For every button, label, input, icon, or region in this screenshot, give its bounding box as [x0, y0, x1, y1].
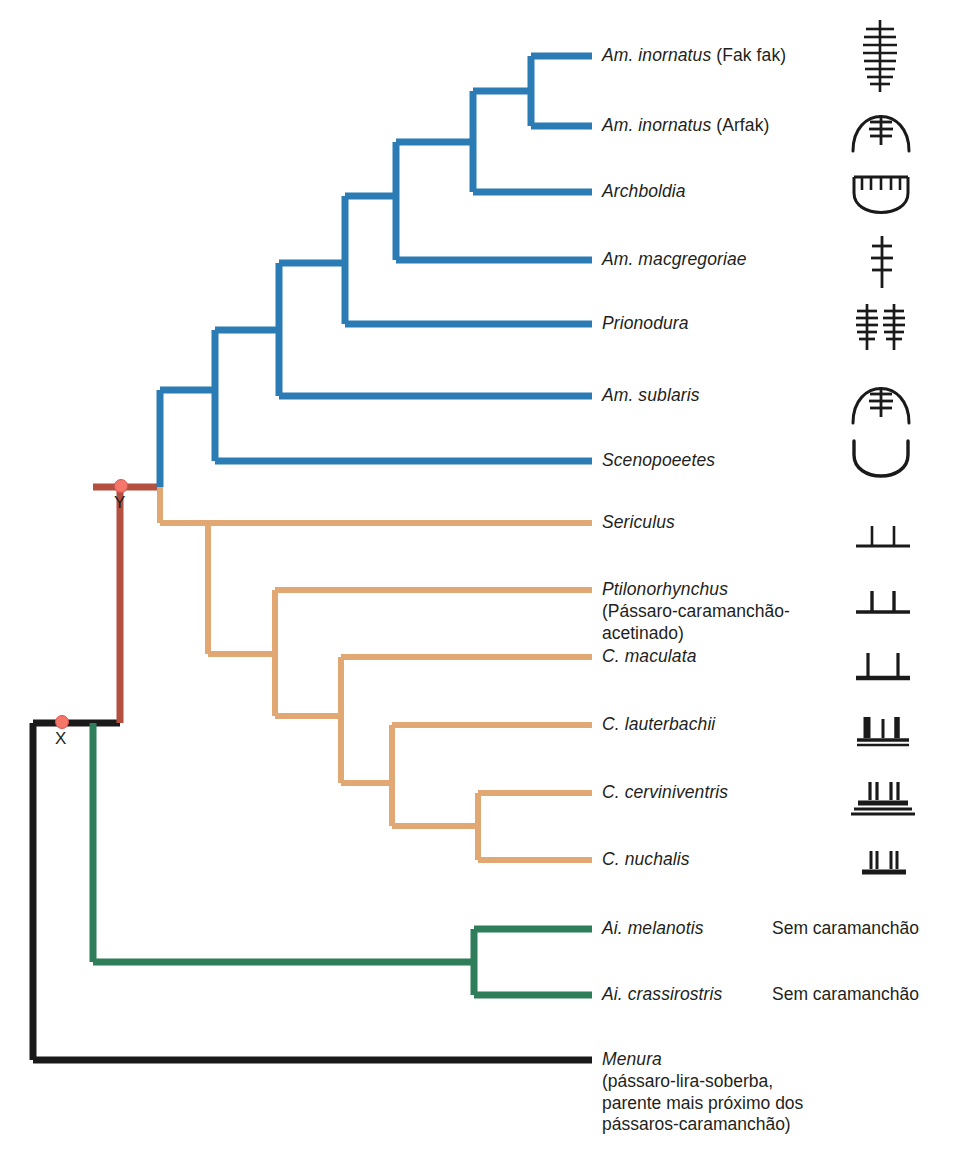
bower-icon-mat-court-comb: [848, 163, 914, 225]
root-branches-black: [33, 723, 592, 1060]
tip-label-ptilonorhynchus: Ptilonorhynchus: [602, 579, 728, 600]
clade-branches-blue: [160, 56, 592, 487]
bower-icon-avenue-stacked-platform: [848, 780, 918, 822]
node-label-x: X: [55, 729, 66, 749]
tip-name: Sericulus: [602, 512, 675, 532]
tip-name: C. lauterbachii: [602, 714, 715, 734]
tip-sublabel-menura: (pássaro-lira-soberba, parente mais próx…: [602, 1071, 803, 1136]
tip-label-c-maculata: C. maculata: [602, 646, 696, 667]
bower-icon-maypole-with-hut-arc: [848, 95, 914, 157]
bower-icon-maypole-with-hut-arc: [848, 367, 914, 429]
bower-icon-maypole-dense-stick: [848, 18, 912, 94]
tip-name: Archboldia: [602, 181, 686, 201]
tip-name: Ai. crassirostris: [602, 984, 722, 1004]
tip-suffix: (Fak fak): [711, 45, 786, 65]
bower-icon-maypole-twin-towers: [850, 300, 912, 354]
bower-icon-maypole-short-stick: [860, 234, 904, 290]
tip-label-c-cerviniventris: C. cerviniventris: [602, 782, 728, 803]
tip-label-c-lauterbachii: C. lauterbachii: [602, 714, 715, 735]
tip-label-archboldia: Archboldia: [602, 181, 686, 202]
tip-label-menura: Menura: [602, 1049, 662, 1070]
bower-icon-avenue-thin-walls: [852, 520, 914, 554]
tip-label-am-macgregoriae: Am. macgregoriae: [602, 249, 747, 270]
tip-sublabel-ptilonorhynchus: (Pássaro-caramanchão- acetinado): [602, 601, 790, 644]
bower-icon-court-arc-only: [848, 435, 914, 487]
tip-name: Am. inornatus: [602, 45, 711, 65]
node-label-y: Y: [114, 493, 125, 513]
tip-name: C. maculata: [602, 646, 696, 666]
tip-suffix: (Arfak): [711, 115, 769, 135]
tip-label-scenopoeetes: Scenopoeetes: [602, 450, 715, 471]
tip-name: Am. inornatus: [602, 115, 711, 135]
bower-icon-avenue-tall-walls-platform: [852, 650, 914, 688]
phylogenetic-tree-figure: X Y Am. inornatus (Fak fak) Am. inornatu…: [0, 0, 969, 1174]
tip-label-ai-crassirostris: Ai. crassirostris: [602, 984, 722, 1005]
tip-name: Menura: [602, 1049, 662, 1069]
tip-label-prionodura: Prionodura: [602, 313, 689, 334]
bower-icon-avenue-twin-thick-walls: [854, 848, 914, 884]
tip-label-am-sublaris: Am. sublaris: [602, 385, 699, 406]
tip-name: Am. macgregoriae: [602, 249, 747, 269]
tip-name: Ptilonorhynchus: [602, 579, 728, 599]
tip-label-sericulus: Sericulus: [602, 512, 675, 533]
tip-name: Scenopoeetes: [602, 450, 715, 470]
clade-branches-tan: [160, 487, 592, 860]
tip-label-ai-melanotis: Ai. melanotis: [602, 918, 703, 939]
node-dot-x: [56, 716, 69, 729]
stem-branches-red: [93, 487, 160, 723]
tip-label-am-inornatus-fakfak: Am. inornatus (Fak fak): [602, 45, 786, 66]
tip-name: C. cerviniventris: [602, 782, 728, 802]
tip-name: Prionodura: [602, 313, 689, 333]
tip-name: C. nuchalis: [602, 849, 690, 869]
tip-name: Ai. melanotis: [602, 918, 703, 938]
bower-icon-avenue-triple-wall-platform: [852, 714, 914, 752]
tip-label-c-nuchalis: C. nuchalis: [602, 849, 690, 870]
bower-note-ai-melanotis: Sem caramanchão: [772, 918, 919, 939]
bower-icon-avenue-medium-walls: [852, 586, 914, 620]
node-dot-y: [115, 480, 128, 493]
tip-label-am-inornatus-arfak: Am. inornatus (Arfak): [602, 115, 769, 136]
tip-name: Am. sublaris: [602, 385, 699, 405]
bower-note-ai-crassirostris: Sem caramanchão: [772, 984, 919, 1005]
